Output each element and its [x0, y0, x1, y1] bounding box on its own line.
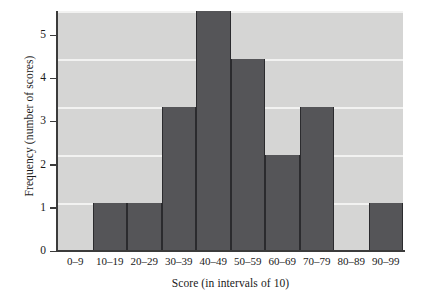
- x-axis-title: Score (in intervals of 10): [58, 276, 403, 291]
- plot-area: [58, 11, 403, 251]
- x-tick-label-8: 80–89: [334, 254, 369, 268]
- bar-10-19: [93, 203, 128, 251]
- gridline-5: [58, 11, 403, 13]
- bar-40-49: [196, 11, 231, 251]
- bar-20-29: [127, 203, 162, 251]
- y-tick-mark-1: [50, 207, 56, 209]
- x-tick-label-4: 40–49: [196, 254, 231, 268]
- y-tick-label-0: 0: [16, 245, 46, 257]
- y-tick-mark-4: [50, 78, 56, 80]
- y-tick-label-3: 3: [16, 115, 46, 127]
- y-tick-mark-0: [50, 251, 56, 253]
- bar-70-79: [300, 107, 335, 251]
- y-tick-mark-3: [50, 121, 56, 123]
- x-axis-line: [56, 250, 405, 252]
- y-tick-mark-5: [50, 35, 56, 37]
- x-tick-label-5: 50–59: [231, 254, 266, 268]
- y-axis-line: [56, 11, 58, 252]
- bar-30-39: [162, 107, 197, 251]
- bar-60-69: [265, 155, 300, 251]
- x-tick-label-1: 10–19: [93, 254, 128, 268]
- x-tick-label-9: 90–99: [369, 254, 404, 268]
- x-tick-label-6: 60–69: [265, 254, 300, 268]
- y-tick-label-2: 2: [16, 159, 46, 171]
- y-tick-label-5: 5: [16, 29, 46, 41]
- y-tick-label-1: 1: [16, 202, 46, 214]
- y-tick-label-4: 4: [16, 72, 46, 84]
- x-tick-label-3: 30–39: [162, 254, 197, 268]
- bar-50-59: [231, 59, 266, 251]
- bar-90-99: [369, 203, 404, 251]
- x-tick-label-0: 0–9: [58, 254, 93, 268]
- x-tick-label-2: 20–29: [127, 254, 162, 268]
- histogram-figure: Frequency (number of scores) 0 1 2 3 4 5…: [0, 0, 425, 306]
- x-tick-label-7: 70–79: [300, 254, 335, 268]
- y-tick-mark-2: [50, 164, 56, 166]
